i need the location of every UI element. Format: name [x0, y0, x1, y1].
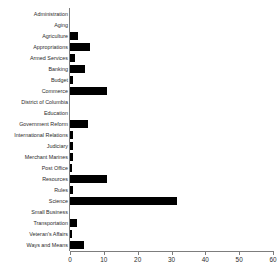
category-label: Merchant Marines: [2, 154, 68, 160]
bar-row: Armed Services: [0, 52, 278, 63]
bar-row: Rules: [0, 185, 278, 196]
x-axis-tick-label: 0: [58, 256, 82, 263]
bar: [70, 153, 73, 161]
category-label: Ways and Means: [2, 242, 68, 248]
bar: [70, 54, 75, 62]
x-axis-tick: [138, 251, 139, 255]
x-axis-tick-label: 60: [261, 256, 278, 263]
bar-row: District of Columbia: [0, 96, 278, 107]
bar-row: Appropriations: [0, 41, 278, 52]
bar: [70, 164, 72, 172]
bar: [70, 186, 73, 194]
category-label: Rules: [2, 187, 68, 193]
category-label: International Relations: [2, 132, 68, 138]
category-label: Commerce: [2, 88, 68, 94]
bar-row: Small Business: [0, 207, 278, 218]
category-label: Post Office: [2, 165, 68, 171]
category-label: District of Columbia: [2, 99, 68, 105]
category-label: Judiciary: [2, 143, 68, 149]
category-label: Veteran's Affairs: [2, 231, 68, 237]
bar-row: International Relations: [0, 130, 278, 141]
bar-row: Agriculture: [0, 30, 278, 41]
bar: [70, 43, 90, 51]
category-label: Administration: [2, 11, 68, 17]
bar-row: Administration: [0, 8, 278, 19]
bar: [70, 219, 77, 227]
x-axis: 0102030405060: [0, 251, 278, 279]
x-axis-tick: [273, 251, 274, 255]
category-label: Aging: [2, 22, 68, 28]
bar: [70, 120, 88, 128]
bar-row: Transportation: [0, 218, 278, 229]
plot-area: AdministrationAgingAgricultureAppropriat…: [0, 8, 278, 251]
x-axis-tick: [70, 251, 71, 255]
bar-row: Resources: [0, 174, 278, 185]
category-label: Transportation: [2, 220, 68, 226]
x-axis-tick: [239, 251, 240, 255]
x-axis-tick-label: 30: [160, 256, 184, 263]
bar-row: Science: [0, 196, 278, 207]
x-axis-tick: [205, 251, 206, 255]
category-label: Armed Services: [2, 55, 68, 61]
bar-row: Education: [0, 107, 278, 118]
bar-row: Judiciary: [0, 141, 278, 152]
category-label: Resources: [2, 176, 68, 182]
category-label: Budget: [2, 77, 68, 83]
bar-row: Aging: [0, 19, 278, 30]
bar-row: Commerce: [0, 85, 278, 96]
x-axis-tick: [172, 251, 173, 255]
category-label: Small Business: [2, 209, 68, 215]
category-label: Science: [2, 198, 68, 204]
bar-row: Government Reform: [0, 118, 278, 129]
bar-row: Budget: [0, 74, 278, 85]
bar: [70, 175, 107, 183]
bar: [70, 76, 73, 84]
x-axis-tick-label: 20: [126, 256, 150, 263]
bar: [70, 32, 78, 40]
bar: [70, 142, 73, 150]
category-label: Banking: [2, 66, 68, 72]
y-axis-line: [69, 8, 70, 251]
x-axis-tick-label: 50: [227, 256, 251, 263]
bar: [70, 131, 73, 139]
bar: [70, 87, 107, 95]
x-axis-tick: [104, 251, 105, 255]
category-label: Government Reform: [2, 121, 68, 127]
bar: [70, 65, 85, 73]
bar: [70, 241, 84, 249]
bar-row: Ways and Means: [0, 240, 278, 251]
bar-chart: AdministrationAgingAgricultureAppropriat…: [0, 0, 278, 279]
bar: [70, 230, 72, 238]
bar-row: Veteran's Affairs: [0, 229, 278, 240]
bar-row: Post Office: [0, 163, 278, 174]
category-label: Agriculture: [2, 33, 68, 39]
bar: [70, 197, 177, 205]
bar-row: Banking: [0, 63, 278, 74]
x-axis-tick-label: 10: [92, 256, 116, 263]
bar-row: Merchant Marines: [0, 152, 278, 163]
category-label: Appropriations: [2, 44, 68, 50]
x-axis-tick-label: 40: [193, 256, 217, 263]
category-label: Education: [2, 110, 68, 116]
